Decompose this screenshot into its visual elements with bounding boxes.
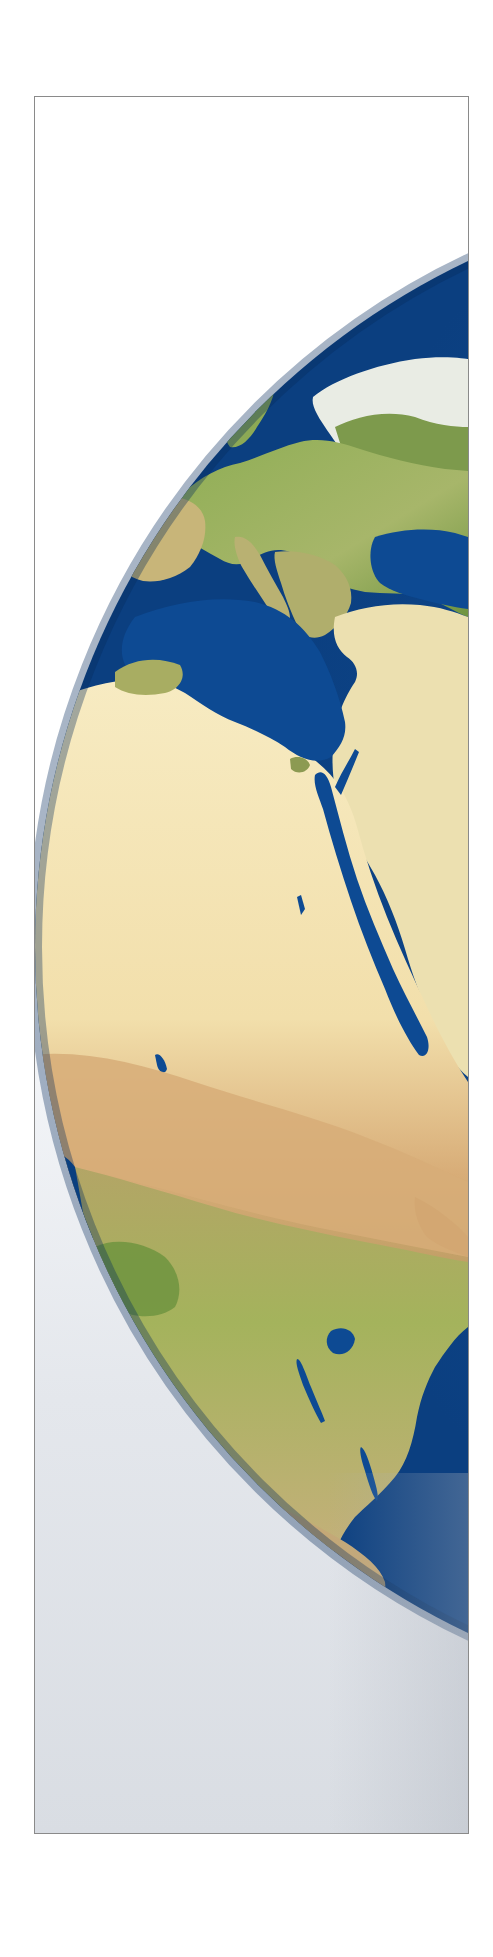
image-frame [34, 96, 469, 1834]
ireland [203, 408, 226, 431]
arctic-ice [295, 159, 468, 238]
background-shadow [328, 1473, 468, 1833]
atmosphere-arc [365, 209, 468, 245]
